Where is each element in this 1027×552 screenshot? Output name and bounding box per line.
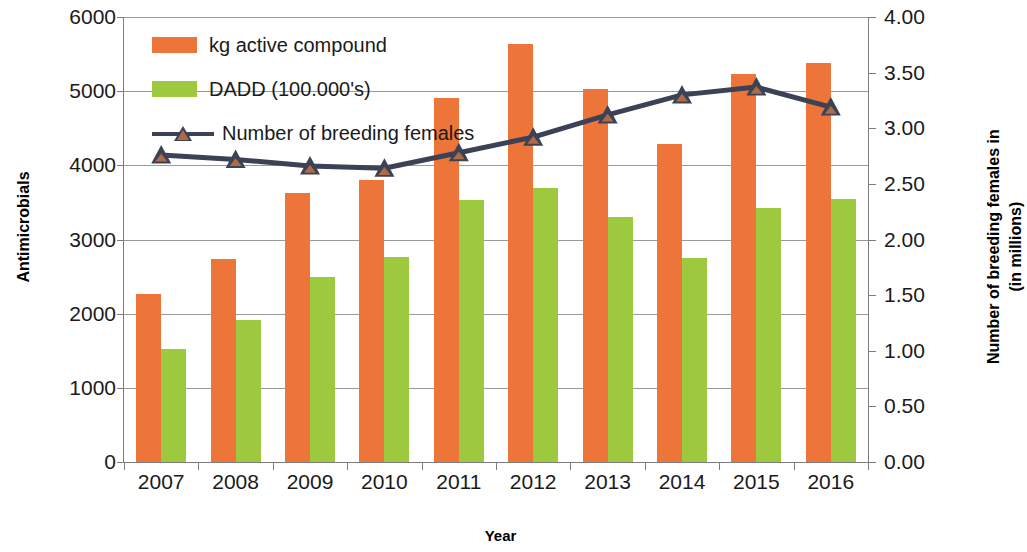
x-axis-tick-mark: [198, 462, 199, 470]
x-axis-category-label: 2007: [124, 470, 198, 494]
x-axis-category-label: 2009: [273, 470, 347, 494]
x-axis-category-label: 2016: [794, 470, 868, 494]
x-axis-title: Year: [0, 527, 1001, 544]
y-axis-right-tick-label: 3.50: [884, 62, 950, 83]
legend-label-kg: kg active compound: [209, 34, 387, 57]
y-axis-left-tick-mark: [117, 91, 124, 92]
y-axis-right-tick-label: 3.00: [884, 117, 950, 138]
y-axis-right-tick-mark: [868, 462, 876, 463]
y-axis-right-tick-mark: [868, 128, 876, 129]
x-axis-tick-mark: [496, 462, 497, 470]
x-axis-category-label: 2015: [719, 470, 793, 494]
y-axis-right-tick-mark: [868, 17, 876, 18]
x-axis-category-label: 2010: [347, 470, 421, 494]
y-axis-left-tick-label: 0: [4, 451, 116, 472]
y-axis-right-tick-mark: [868, 406, 876, 407]
legend-line-marker-icon: [152, 125, 214, 141]
y-axis-right-title-line1: Number of breeding females in: [985, 129, 1002, 364]
y-axis-right-tick-mark: [868, 295, 876, 296]
x-axis-category-label: 2011: [422, 470, 496, 494]
chart-legend: kg active compound DADD (100.000's) Numb…: [152, 28, 512, 160]
y-axis-right-tick-label: 0.00: [884, 451, 950, 472]
x-axis-category-label: 2008: [198, 470, 272, 494]
y-axis-left-tick-mark: [117, 462, 124, 463]
x-axis-tick-mark: [868, 462, 869, 470]
y-axis-left-tick-mark: [117, 165, 124, 166]
y-axis-right-tick-mark: [868, 351, 876, 352]
x-axis-tick-mark: [794, 462, 795, 470]
legend-label-breeding-females: Number of breeding females: [222, 122, 474, 145]
y-axis-right-title-line2: (in millions): [1007, 202, 1024, 292]
y-axis-right-tick-label: 0.50: [884, 395, 950, 416]
y-axis-left-tick-mark: [117, 388, 124, 389]
x-axis-tick-mark: [124, 462, 125, 470]
x-axis-tick-mark: [347, 462, 348, 470]
y-axis-right-tick-mark: [868, 73, 876, 74]
x-axis-tick-mark: [719, 462, 720, 470]
y-axis-right-tick-label: 1.50: [884, 284, 950, 305]
y-axis-left-tick-label: 6000: [4, 6, 116, 27]
y-axis-left-tick-mark: [117, 314, 124, 315]
y-axis-left-tick-mark: [117, 17, 124, 18]
y-axis-left-tick-label: 3000: [4, 229, 116, 250]
x-axis-category-label: 2012: [496, 470, 570, 494]
legend-swatch-icon-dadd: [152, 81, 197, 97]
x-axis-category-label: 2013: [570, 470, 644, 494]
y-axis-right-ticks: 4.003.503.002.502.001.501.000.500.00: [884, 0, 964, 552]
y-axis-right-tick-label: 4.00: [884, 6, 950, 27]
x-axis-tick-mark: [570, 462, 571, 470]
x-axis-tick-mark: [645, 462, 646, 470]
legend-item-dadd[interactable]: DADD (100.000's): [152, 72, 512, 106]
legend-swatch-icon-kg: [152, 37, 197, 53]
x-axis-tick-mark: [422, 462, 423, 470]
y-axis-right-tick-label: 2.00: [884, 229, 950, 250]
x-axis-tick-mark: [273, 462, 274, 470]
y-axis-right-tick-label: 1.00: [884, 340, 950, 361]
legend-item-breeding-females[interactable]: Number of breeding females: [152, 116, 512, 150]
legend-item-kg-active-compound[interactable]: kg active compound: [152, 28, 512, 62]
y-axis-right-tick-mark: [868, 240, 876, 241]
y-axis-left-tick-label: 5000: [4, 80, 116, 101]
y-axis-right-tick-mark: [868, 184, 876, 185]
y-axis-left-tick-label: 2000: [4, 303, 116, 324]
y-axis-right-tick-label: 2.50: [884, 173, 950, 194]
legend-label-dadd: DADD (100.000's): [209, 78, 371, 101]
y-axis-left-tick-label: 1000: [4, 377, 116, 398]
x-axis-category-label: 2014: [645, 470, 719, 494]
y-axis-left-tick-mark: [117, 240, 124, 241]
y-axis-right-title: Number of breeding females in (in millio…: [983, 97, 1026, 397]
y-axis-left-ticks: 6000500040003000200010000: [0, 0, 116, 552]
y-axis-left-tick-label: 4000: [4, 154, 116, 175]
